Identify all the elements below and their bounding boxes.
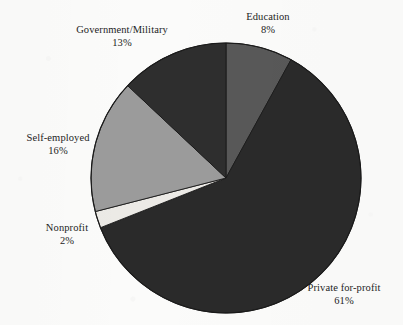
pie-chart-figure: Government/Military 13% Education 8% Sel… <box>0 0 403 325</box>
slice-label-private-for-profit: Private for-profit 61% <box>290 282 398 307</box>
slice-label-government-military-value: 13% <box>62 37 182 50</box>
slice-label-education-value: 8% <box>219 24 317 37</box>
slice-label-nonprofit: Nonprofit 2% <box>26 222 108 247</box>
slice-label-private-for-profit-name: Private for-profit <box>290 282 398 295</box>
slice-label-self-employed-value: 16% <box>10 145 106 158</box>
slice-label-government-military: Government/Military 13% <box>62 24 182 49</box>
slice-label-private-for-profit-value: 61% <box>290 295 398 308</box>
slice-label-self-employed: Self-employed 16% <box>10 132 106 157</box>
pie-chart-svg <box>0 0 403 325</box>
slice-label-government-military-name: Government/Military <box>62 24 182 37</box>
slice-label-self-employed-name: Self-employed <box>10 132 106 145</box>
pie-slice-group <box>91 43 361 313</box>
slice-label-education: Education 8% <box>219 11 317 36</box>
slice-label-nonprofit-name: Nonprofit <box>26 222 108 235</box>
slice-label-nonprofit-value: 2% <box>26 235 108 248</box>
slice-label-education-name: Education <box>219 11 317 24</box>
